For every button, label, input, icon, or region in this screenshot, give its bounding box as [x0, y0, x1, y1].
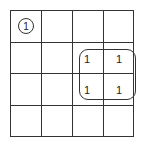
karnaugh-map: 1 1 1 1 1	[10, 10, 134, 137]
grid-line	[72, 10, 73, 137]
cell-value: 1	[84, 54, 90, 65]
cell-value: 1	[23, 21, 29, 32]
grid-line	[10, 10, 11, 137]
cell-value: 1	[84, 85, 90, 96]
cell-value: 1	[116, 54, 122, 65]
grid-line	[41, 10, 42, 137]
circled-cell-value: 1	[18, 18, 34, 34]
cell-value: 1	[116, 85, 122, 96]
